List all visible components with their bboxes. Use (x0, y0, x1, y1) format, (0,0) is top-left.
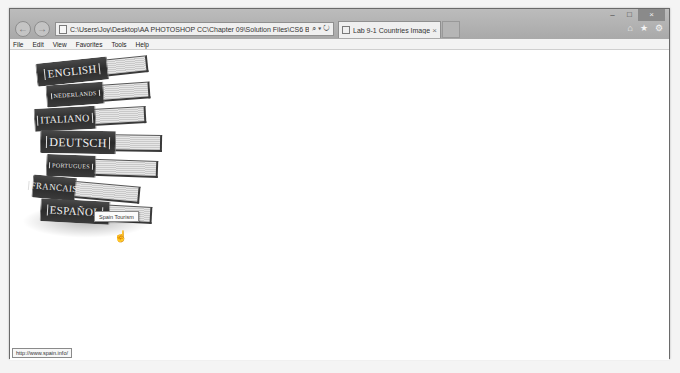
favorites-icon[interactable]: ★ (640, 23, 648, 33)
search-refresh-icons[interactable]: ⌕ ▾ ↻ (312, 24, 330, 34)
browser-window: – □ × ← → C:\Users\Joy\Desktop\AA PHOTOS… (9, 8, 670, 359)
book-pages (105, 55, 149, 76)
title-bar: – □ × ← → C:\Users\Joy\Desktop\AA PHOTOS… (10, 9, 669, 39)
window-controls: – □ × (604, 9, 665, 21)
menu-file[interactable]: File (13, 41, 23, 48)
status-bar-url: http://www.spain.info/ (12, 348, 72, 358)
back-button[interactable]: ← (15, 21, 31, 37)
tooltip: Spain Tourism (94, 211, 139, 222)
book-spine: ITALIANO (33, 106, 96, 132)
books-image-map: ENGLISH NEDERLANDS ITALIANO (22, 58, 152, 238)
book-spine: DEUTSCH (40, 130, 116, 154)
book-spine: PORTUGUES (46, 154, 97, 178)
tab-page-icon (342, 26, 350, 34)
forward-button[interactable]: → (34, 21, 50, 37)
menu-view[interactable]: View (53, 41, 67, 48)
page-icon (59, 25, 67, 34)
new-tab-button[interactable] (442, 21, 460, 38)
book-italiano[interactable]: ITALIANO (33, 103, 146, 132)
tab-title: Lab 9-1 Countries Image M... (353, 27, 430, 34)
menu-tools[interactable]: Tools (111, 41, 126, 48)
book-spine: FRANCAIS (31, 174, 77, 201)
book-spine: NEDERLANDS (45, 82, 104, 108)
maximize-button[interactable]: □ (621, 9, 638, 21)
menu-bar: File Edit View Favorites Tools Help (10, 39, 669, 50)
menu-favorites[interactable]: Favorites (76, 41, 103, 48)
minimize-button[interactable]: – (604, 9, 621, 21)
book-pages (92, 106, 147, 126)
book-deutsch[interactable]: DEUTSCH (40, 130, 162, 155)
menu-edit[interactable]: Edit (32, 41, 43, 48)
menu-help[interactable]: Help (136, 41, 149, 48)
tab-active[interactable]: Lab 9-1 Countries Image M... × (338, 21, 441, 38)
toolbar-icons: ⌂ ★ ⚙ (628, 23, 663, 33)
home-icon[interactable]: ⌂ (628, 23, 633, 33)
book-pages (101, 81, 150, 101)
hand-cursor-icon: ☝ (114, 230, 128, 243)
page-content: ENGLISH NEDERLANDS ITALIANO (10, 50, 669, 360)
settings-icon[interactable]: ⚙ (655, 23, 663, 33)
tab-close-icon[interactable]: × (432, 26, 437, 35)
address-url[interactable]: C:\Users\Joy\Desktop\AA PHOTOSHOP CC\Cha… (70, 26, 309, 33)
address-bar[interactable]: C:\Users\Joy\Desktop\AA PHOTOSHOP CC\Cha… (55, 22, 334, 36)
book-pages (92, 159, 159, 178)
close-window-button[interactable]: × (638, 9, 665, 21)
book-pages (112, 134, 162, 152)
